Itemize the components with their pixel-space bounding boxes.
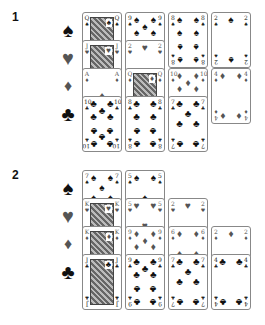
heart-icon: ♥: [58, 48, 78, 68]
card-rank: 2: [201, 200, 205, 207]
diamond-icon: ♦: [132, 242, 142, 252]
card-rank: 7: [201, 143, 205, 150]
club-icon: ♣: [191, 257, 201, 267]
heart-icon: ♥: [183, 201, 193, 211]
card-index: J♣: [114, 257, 120, 269]
club-icon: ♣: [148, 112, 158, 122]
card-rank: J: [86, 301, 88, 308]
heart-icon: ♥: [132, 201, 142, 211]
club-icon: ♣: [89, 139, 99, 149]
card-rank: 4: [244, 256, 248, 263]
club-icon: ♣: [175, 277, 185, 287]
heart-icon: ♥: [58, 206, 78, 226]
playing-card: 10♣10♣10♣10♣♣♣♣♣♣♣♣♣♣♣: [82, 96, 122, 152]
spade-icon: ♠: [175, 42, 185, 52]
spade-icon: ♠: [89, 173, 99, 183]
playing-card: 9♣9♣9♣9♣♣♣♣♣♣♣♣♣♣: [125, 254, 165, 310]
club-icon: ♣: [148, 284, 158, 294]
club-icon: ♣: [218, 297, 228, 307]
club-icon: ♣: [148, 270, 158, 280]
card-rank: 9: [158, 14, 162, 21]
card-rank: 2: [244, 14, 248, 21]
spade-icon: ♠: [132, 28, 142, 38]
card-rank: A: [115, 70, 119, 77]
diamond-icon: ♦: [175, 84, 185, 94]
heart-icon: ♥: [200, 207, 206, 213]
club-icon: ♣: [175, 257, 185, 267]
club-icon: ♣: [132, 139, 142, 149]
card-rank: 8: [201, 59, 205, 66]
card-rank: 9: [158, 301, 162, 308]
diamond-icon: ♦: [114, 77, 120, 83]
section-label: 2: [12, 168, 19, 182]
card-index: 2♠: [243, 53, 249, 65]
club-icon: ♣: [175, 99, 185, 109]
card-rank: J: [86, 256, 88, 263]
club-icon: ♣: [234, 257, 244, 267]
spade-icon: ♠: [175, 15, 185, 25]
heart-icon: ♥: [114, 49, 120, 55]
club-icon: ♣: [89, 112, 99, 122]
diamond-icon: ♦: [148, 242, 158, 252]
card-rank: 2: [158, 42, 162, 49]
spade-icon: ♠: [114, 21, 120, 27]
card-rank: 2: [214, 228, 218, 235]
card-rank: A: [85, 70, 89, 77]
club-icon: ♣: [234, 297, 244, 307]
playing-card: J♣J♣J♣J♣♣: [82, 254, 122, 310]
spade-icon: ♠: [97, 183, 107, 193]
spade-icon: ♠: [191, 42, 201, 52]
card-rank: Q: [85, 14, 90, 21]
court-card-portrait: ♣: [90, 259, 114, 305]
card-rank: 7: [201, 256, 205, 263]
club-icon: ♣: [58, 104, 78, 124]
card-rank: J: [116, 256, 118, 263]
card-rank: 2: [214, 14, 218, 21]
card-rank: 8: [158, 98, 162, 105]
card-rank: 9: [158, 256, 162, 263]
card-index: J♣: [114, 295, 120, 307]
diamond-icon: ♦: [191, 229, 201, 239]
heart-icon: ♥: [105, 205, 112, 213]
spade-icon: ♠: [175, 55, 185, 65]
card-rank: Q: [158, 70, 163, 77]
club-icon: ♣: [114, 263, 120, 269]
club-icon: ♣: [132, 99, 142, 109]
club-icon: ♣: [218, 257, 228, 267]
card-rank: J: [86, 42, 88, 49]
club-icon: ♣: [175, 139, 185, 149]
diamond-icon: ♦: [191, 84, 201, 94]
card-rank: 8: [201, 14, 205, 21]
card-index: 2♦: [243, 229, 249, 241]
club-icon: ♣: [132, 270, 142, 280]
spade-icon: ♠: [106, 19, 112, 27]
card-rank: J: [116, 301, 118, 308]
spade-icon: ♠: [58, 20, 78, 40]
card-rank: 4: [244, 115, 248, 122]
club-icon: ♣: [114, 295, 120, 301]
card-rank: Q: [115, 14, 120, 21]
card-index: J♥: [114, 43, 120, 55]
diamond-icon: ♦: [114, 235, 120, 241]
playing-card: 2♠2♠2♠2♠♠♠: [211, 12, 251, 68]
card-index: K♥: [114, 201, 120, 213]
diamond-icon: ♦: [234, 71, 244, 81]
spade-icon: ♠: [226, 55, 236, 65]
card-rank: 8: [158, 143, 162, 150]
spade-icon: ♠: [148, 28, 158, 38]
card-rank: 2: [214, 59, 218, 66]
club-icon: ♣: [132, 112, 142, 122]
diamond-icon: ♦: [218, 71, 228, 81]
card-index: Q♦: [157, 71, 163, 83]
card-index: A♦: [114, 71, 120, 83]
diamond-icon: ♦: [226, 229, 236, 239]
card-index: K♦: [114, 229, 120, 241]
card-rank: 6: [201, 228, 205, 235]
spade-icon: ♠: [191, 15, 201, 25]
spade-icon: ♠: [243, 53, 249, 59]
spade-icon: ♠: [105, 173, 115, 183]
club-icon: ♣: [148, 126, 158, 136]
club-icon: ♣: [132, 284, 142, 294]
spade-icon: ♠: [226, 15, 236, 25]
card-rank: 9: [158, 228, 162, 235]
